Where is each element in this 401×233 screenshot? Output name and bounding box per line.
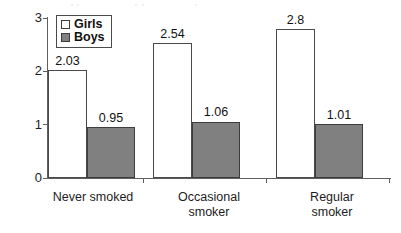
- bar-boys-regular-smoker: [315, 124, 363, 178]
- legend-item-girls: Girls: [61, 18, 105, 31]
- legend-swatch-girls-icon: [61, 20, 70, 29]
- value-label-girls-never-smoked: 2.03: [48, 55, 87, 68]
- value-label-boys-occasional-smoker: 1.06: [192, 106, 240, 119]
- y-tick-label-3: 3: [8, 11, 42, 24]
- x-axis-category-label-regular-smoker: Regular smoker: [273, 190, 391, 220]
- bar-girls-occasional-smoker: [153, 43, 192, 179]
- legend: Girls Boys: [56, 15, 112, 48]
- legend-label-girls: Girls: [74, 18, 103, 31]
- value-label-boys-never-smoked: 0.95: [87, 112, 135, 125]
- bar-chart: 3 2 1 0 2.03 0.95 2.54 1.06 2.8 1.01 Nev…: [0, 0, 401, 233]
- bar-boys-never-smoked: [87, 127, 135, 178]
- value-label-boys-regular-smoker: 1.01: [315, 109, 363, 122]
- x-axis-category-label-never-smoked: Never smoked: [34, 190, 152, 205]
- bar-girls-regular-smoker: [276, 29, 315, 178]
- x-axis-tick-group-divider-2: [266, 178, 267, 183]
- x-axis-tick-group-end: [389, 178, 390, 183]
- y-tick-label-1: 1: [8, 118, 42, 131]
- bar-boys-occasional-smoker: [192, 122, 240, 179]
- legend-label-boys: Boys: [74, 31, 105, 44]
- x-axis-tick-group-divider-1: [143, 178, 144, 183]
- bar-girls-never-smoked: [48, 70, 87, 178]
- legend-swatch-boys-icon: [61, 33, 70, 42]
- scan-artifact: [0, 0, 401, 6]
- x-axis-category-label-occasional-smoker: Occasional smoker: [150, 190, 268, 220]
- value-label-girls-occasional-smoker: 2.54: [153, 28, 192, 41]
- y-tick-label-2: 2: [8, 64, 42, 77]
- value-label-girls-regular-smoker: 2.8: [276, 14, 315, 27]
- y-tick-label-0: 0: [8, 171, 42, 184]
- legend-item-boys: Boys: [61, 31, 105, 44]
